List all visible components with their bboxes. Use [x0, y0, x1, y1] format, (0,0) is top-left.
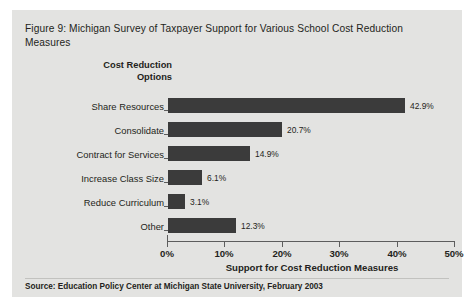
category-label: Increase Class Size — [22, 173, 164, 184]
x-axis-tick-label: 0% — [160, 248, 174, 259]
bar — [168, 122, 282, 137]
category-label: Reduce Curriculum — [22, 197, 164, 208]
x-axis-tick — [339, 242, 340, 247]
bar — [168, 218, 236, 233]
bar — [168, 194, 185, 209]
category-label: Other — [22, 221, 164, 232]
x-axis-line — [167, 241, 455, 242]
x-axis-tick-label: 10% — [214, 248, 233, 259]
bar — [168, 170, 202, 185]
bar-value-label: 20.7% — [287, 125, 311, 135]
x-axis-tick-label: 40% — [387, 248, 406, 259]
bar — [168, 98, 405, 113]
bar-chart-plot: Share Resources Consolidate Contract for… — [12, 10, 462, 297]
x-axis-tick — [397, 242, 398, 247]
bar — [168, 146, 250, 161]
footer-divider — [25, 278, 449, 279]
x-axis-tick-label: 20% — [272, 248, 291, 259]
x-axis-tick-label: 30% — [329, 248, 348, 259]
x-axis-tick-label: 50% — [444, 248, 463, 259]
x-axis-title: Support for Cost Reduction Measures — [167, 262, 457, 273]
x-axis-tick — [224, 242, 225, 247]
x-axis-tick — [454, 242, 455, 247]
figure-panel: Figure 9: Michigan Survey of Taxpayer Su… — [12, 10, 462, 297]
bar-value-label: 42.9% — [410, 101, 434, 111]
x-axis-tick — [167, 242, 168, 247]
x-axis-tick — [282, 242, 283, 247]
bar-value-label: 12.3% — [241, 221, 265, 231]
bar-value-label: 6.1% — [207, 173, 226, 183]
source-note: Source: Education Policy Center at Michi… — [25, 282, 323, 291]
category-label: Share Resources — [22, 101, 164, 112]
bar-value-label: 3.1% — [190, 197, 209, 207]
category-label: Consolidate — [22, 125, 164, 136]
bar-value-label: 14.9% — [255, 149, 279, 159]
category-label: Contract for Services — [22, 149, 164, 160]
